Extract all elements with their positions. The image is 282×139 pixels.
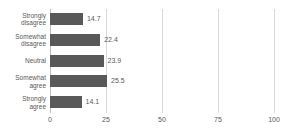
bar-chart: Strongly disagreeSomewhat disagreeNeutra… <box>0 0 282 139</box>
y-axis-category-labels: Strongly disagreeSomewhat disagreeNeutra… <box>0 9 46 113</box>
x-tick-label: 50 <box>158 116 166 123</box>
bar-row: 23.9 <box>50 51 274 72</box>
category-label: Strongly disagree <box>0 12 46 27</box>
bar-row: 14.1 <box>50 92 274 113</box>
bar-value-label: 22.4 <box>104 33 118 46</box>
chart-title-clip <box>0 0 150 3</box>
bar <box>50 13 83 25</box>
bar-row: 22.4 <box>50 30 274 51</box>
category-label: Strongly agree <box>0 95 46 110</box>
bar <box>50 96 82 108</box>
x-tick-label: 0 <box>48 116 52 123</box>
bar-row: 14.7 <box>50 9 274 30</box>
x-tick-label: 25 <box>102 116 110 123</box>
bar-value-label: 14.7 <box>87 12 101 25</box>
bar-value-label: 23.9 <box>108 54 122 67</box>
x-axis-tick-labels: 0255075100 <box>50 116 274 128</box>
category-label: Somewhat disagree <box>0 33 46 48</box>
gridline <box>274 9 275 113</box>
bar-row: 25.5 <box>50 71 274 92</box>
category-label: Somewhat agree <box>0 74 46 89</box>
bar <box>50 55 104 67</box>
bar-value-label: 25.5 <box>111 74 125 87</box>
bar <box>50 75 107 87</box>
bar-value-label: 14.1 <box>86 95 100 108</box>
x-tick-label: 75 <box>214 116 222 123</box>
plot-area: 14.722.423.925.514.1 <box>50 9 274 113</box>
bar <box>50 34 100 46</box>
category-label: Neutral <box>0 57 46 65</box>
x-tick-label: 100 <box>268 116 280 123</box>
